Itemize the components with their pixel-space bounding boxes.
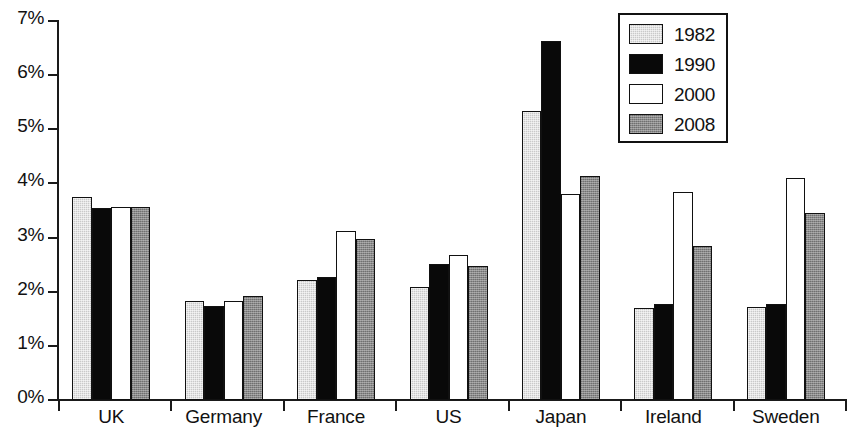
bar [92,208,112,400]
bar-group [297,21,375,400]
y-axis-tick-label: 1% [17,332,44,354]
legend-swatch [629,84,663,104]
bar [336,231,356,400]
bar-group [522,21,600,400]
bar [693,246,713,400]
y-axis-tick-label: 3% [17,224,44,246]
y-axis-tick-mark [48,128,57,130]
chart-legend: 1982199020002008 [618,13,728,143]
bar [297,280,317,400]
bar [243,296,263,400]
legend-label: 2000 [674,85,715,104]
bar [522,111,542,400]
bar [224,301,244,400]
bar [634,308,654,400]
y-axis-tick-mark [48,74,57,76]
legend-item: 2000 [629,81,723,107]
legend-label: 1982 [674,25,715,44]
bar [356,239,376,400]
y-axis-tick-mark [48,291,57,293]
y-axis-tick: 2% [0,291,57,293]
bar [654,304,674,400]
bar-group [72,21,150,400]
legend-item: 1990 [629,51,723,77]
y-axis-tick-mark [48,399,57,401]
legend-item: 1982 [629,21,723,47]
legend-swatch [629,114,663,134]
y-axis-tick-label: 6% [17,61,44,83]
legend-label: 2008 [674,115,715,134]
y-axis-tick: 1% [0,345,57,347]
y-axis-tick-mark [48,20,57,22]
bar [468,266,488,400]
bar [131,207,151,400]
bar [185,301,205,400]
bar [72,197,92,400]
legend-item: 2008 [629,111,723,137]
bar [673,192,693,400]
bar [317,277,337,400]
bar [805,213,825,400]
y-axis-tick: 5% [0,128,57,130]
bar-chart: 0%1%2%3%4%5%6%7% UKGermanyFranceUSJapanI… [0,0,853,437]
y-axis-tick-mark [48,345,57,347]
bar [747,307,767,400]
y-axis-tick-label: 4% [17,169,44,191]
y-axis-tick: 3% [0,237,57,239]
bar [204,306,224,400]
bar [541,41,561,400]
x-axis-category-label: Sweden [707,406,853,428]
bar-group [410,21,488,400]
bar [580,176,600,400]
bar [561,194,581,400]
y-axis-tick-mark [48,237,57,239]
legend-swatch [629,24,663,44]
y-axis-tick: 6% [0,74,57,76]
bar-group [747,21,825,400]
y-axis-tick: 4% [0,182,57,184]
legend-swatch [629,54,663,74]
bar [766,304,786,400]
y-axis-tick: 0% [0,399,57,401]
legend-label: 1990 [674,55,715,74]
bar [429,264,449,400]
y-axis-tick-label: 5% [17,115,44,137]
bar [111,207,131,400]
bar-group [185,21,263,400]
y-axis-tick-label: 0% [17,386,44,408]
y-axis-tick-label: 7% [17,7,44,29]
y-axis-tick-label: 2% [17,278,44,300]
y-axis-tick-mark [48,182,57,184]
bar [449,255,469,400]
y-axis-tick: 7% [0,20,57,22]
bar [786,178,806,400]
bar [410,287,430,400]
